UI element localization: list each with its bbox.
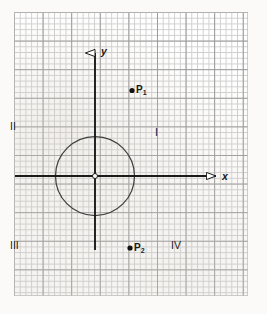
point-p2-label: P2 [134,243,145,253]
quadrant-label-i: I [155,127,158,138]
point-p1-marker [129,88,134,93]
point-p1-label: P1 [136,85,147,95]
vector-overlay [0,0,267,314]
quadrant-label-ii: II [10,121,16,132]
quadrant-label-iii: III [10,240,19,251]
point-p2-marker [127,245,132,250]
point-p2-name: P [134,242,141,253]
x-axis-label: x [222,171,228,182]
quadrant-label-iv: IV [171,240,181,251]
y-axis-label: y [101,46,107,57]
point-p1-subscript: 1 [143,89,147,96]
coordinate-plane-figure: y x I II III IV P1 P2 [0,0,267,314]
point-p2-subscript: 2 [141,247,145,254]
origin-marker [93,174,98,179]
point-p1-name: P [136,84,143,95]
